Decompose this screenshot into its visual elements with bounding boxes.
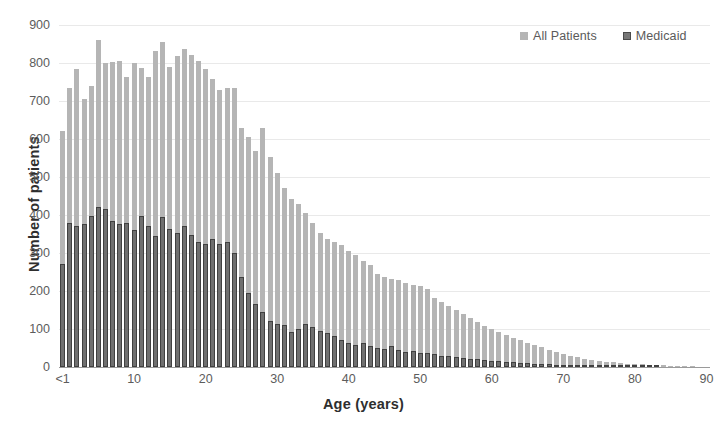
- x-axis-tick-label: 70: [556, 372, 570, 386]
- y-axis-tick-labels: 0100200300400500600700800900: [10, 0, 50, 433]
- bar-group: [353, 25, 358, 367]
- bar-group: [511, 25, 516, 367]
- x-axis-tick-label: <1: [55, 372, 69, 386]
- bar-medicaid: [268, 321, 273, 367]
- bar-medicaid: [210, 239, 215, 367]
- x-axis-tick-label: 40: [342, 372, 356, 386]
- bar-group: [167, 25, 172, 367]
- bar-group: [389, 25, 394, 367]
- bar-group: [661, 25, 666, 367]
- bar-medicaid: [396, 350, 401, 367]
- bar-group: [153, 25, 158, 367]
- bar-group: [260, 25, 265, 367]
- bar-group: [682, 25, 687, 367]
- bar-medicaid: [382, 349, 387, 367]
- bar-group: [439, 25, 444, 367]
- plot-area: [59, 25, 710, 367]
- bar-medicaid: [418, 353, 423, 367]
- bar-group: [296, 25, 301, 367]
- bar-group: [625, 25, 630, 367]
- x-axis-title: Age (years): [0, 396, 727, 412]
- bar-medicaid: [325, 333, 330, 367]
- bar-medicaid: [103, 209, 108, 367]
- bar-medicaid: [196, 242, 201, 367]
- bar-group: [82, 25, 87, 367]
- bar-group: [139, 25, 144, 367]
- bar-group: [489, 25, 494, 367]
- x-axis-line: [59, 367, 710, 368]
- bar-group: [124, 25, 129, 367]
- bar-group: [196, 25, 201, 367]
- bar-medicaid: [361, 343, 366, 367]
- bar-group: [611, 25, 616, 367]
- x-axis-tick-label: 90: [699, 372, 713, 386]
- x-axis-tick-label: 20: [199, 372, 213, 386]
- bar-group: [103, 25, 108, 367]
- bar-medicaid: [203, 244, 208, 368]
- bar-group: [547, 25, 552, 367]
- bar-group: [403, 25, 408, 367]
- bar-medicaid: [282, 325, 287, 367]
- bar-medicaid: [310, 327, 315, 367]
- bar-medicaid: [411, 351, 416, 367]
- bar-group: [446, 25, 451, 367]
- bar-group: [74, 25, 79, 367]
- bar-group: [454, 25, 459, 367]
- bar-medicaid: [153, 236, 158, 367]
- bar-medicaid: [289, 332, 294, 367]
- bar-group: [303, 25, 308, 367]
- bar-group: [575, 25, 580, 367]
- bar-medicaid: [182, 226, 187, 367]
- y-axis-tick-label: 200: [10, 284, 50, 298]
- bar-medicaid: [232, 253, 237, 367]
- bar-group: [525, 25, 530, 367]
- bar-medicaid: [82, 224, 87, 367]
- y-axis-tick-label: 700: [10, 94, 50, 108]
- bar-group: [589, 25, 594, 367]
- x-axis-tick-label: 50: [413, 372, 427, 386]
- x-axis-tick-label: 30: [270, 372, 284, 386]
- bar-group: [582, 25, 587, 367]
- bar-medicaid: [303, 324, 308, 367]
- bar-medicaid: [275, 324, 280, 367]
- bar-group: [175, 25, 180, 367]
- bar-group: [461, 25, 466, 367]
- bar-medicaid: [246, 293, 251, 367]
- bar-group: [425, 25, 430, 367]
- bar-group: [361, 25, 366, 367]
- bar-group: [282, 25, 287, 367]
- bar-medicaid: [117, 224, 122, 367]
- bar-medicaid: [217, 244, 222, 367]
- bar-group: [597, 25, 602, 367]
- bar-medicaid: [167, 229, 172, 367]
- bar-group: [704, 25, 709, 367]
- bar-group: [117, 25, 122, 367]
- bar-medicaid: [146, 226, 151, 367]
- bar-group: [310, 25, 315, 367]
- bar-group: [225, 25, 230, 367]
- bar-group: [318, 25, 323, 367]
- bar-medicaid: [239, 277, 244, 367]
- bar-group: [640, 25, 645, 367]
- bar-medicaid: [468, 359, 473, 367]
- x-axis-tick-label: 60: [485, 372, 499, 386]
- y-axis-tick-label: 300: [10, 246, 50, 260]
- bar-group: [89, 25, 94, 367]
- bar-group: [146, 25, 151, 367]
- bar-group: [561, 25, 566, 367]
- bar-group: [368, 25, 373, 367]
- bar-group: [246, 25, 251, 367]
- bar-medicaid: [353, 345, 358, 367]
- bar-group: [468, 25, 473, 367]
- bar-group: [411, 25, 416, 367]
- bar-group: [482, 25, 487, 367]
- y-axis-tick-label: 800: [10, 56, 50, 70]
- bar-medicaid: [403, 352, 408, 367]
- bar-group: [604, 25, 609, 367]
- bar-medicaid: [368, 346, 373, 367]
- bar-group: [632, 25, 637, 367]
- bar-medicaid: [260, 312, 265, 367]
- bar-group: [618, 25, 623, 367]
- bar-group: [203, 25, 208, 367]
- bar-medicaid: [482, 360, 487, 367]
